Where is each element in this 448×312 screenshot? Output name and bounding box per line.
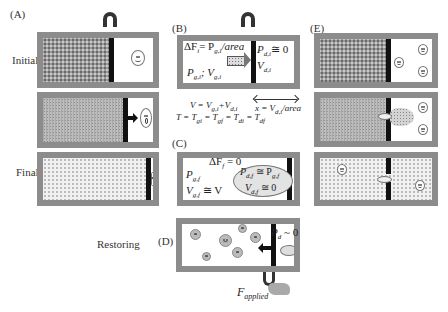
particle-through-membrane	[377, 176, 392, 183]
small-face-bubble	[280, 245, 294, 256]
piston	[123, 98, 128, 142]
chamber-e-transition	[314, 92, 438, 147]
panel-label-a: (A)	[10, 8, 25, 20]
sad-face-icon	[232, 247, 243, 258]
gas-region	[320, 39, 386, 82]
gas-volume-final: Vg,f ≅ V	[186, 184, 222, 199]
volume-equation: V = Vg,i+Vd,i	[190, 100, 237, 113]
row-label-initial: Initial	[12, 54, 38, 66]
pull-arrow-icon	[262, 246, 272, 250]
chamber-a-expanding	[37, 92, 159, 148]
sad-face-icon	[250, 232, 261, 243]
smiley-face-icon	[337, 164, 347, 175]
chamber-e-final	[314, 152, 438, 206]
gas-pressure-final: Pg,f	[186, 168, 200, 183]
panel-label-d: (D)	[158, 235, 173, 247]
horseshoe-magnet-icon	[241, 12, 255, 27]
gas-region	[43, 158, 146, 200]
delta-force-final: ΔFf = 0	[209, 155, 241, 170]
squashed-face-icon	[151, 172, 153, 186]
double-arrow-left-head	[253, 95, 261, 103]
row-label-restoring: Restoring	[97, 238, 140, 250]
displaced-pressure-restoring: Pd ~ 0	[271, 226, 298, 241]
force-arrowhead-icon	[244, 52, 251, 68]
displaced-volume-final: Vd,f ≅ 0	[245, 182, 276, 196]
particle-through-membrane	[378, 113, 392, 120]
panel-label-b: (B)	[172, 22, 187, 34]
gas-region	[43, 38, 109, 82]
displaced-pressure-initial: Pd,i≅ 0	[257, 43, 288, 58]
temperature-equation: T = Tgi = Tgf = Tdi = Tdf	[176, 112, 265, 125]
sad-face-icon	[190, 229, 201, 240]
piston	[109, 38, 114, 82]
smiley-face-icon	[418, 102, 428, 113]
pull-arrowhead-icon	[258, 243, 263, 253]
displaced-volume-initial: Vd,i	[257, 59, 271, 74]
smiley-face-icon	[131, 50, 145, 66]
horseshoe-magnet-icon	[103, 12, 117, 27]
piston-lower	[386, 182, 391, 200]
chamber-e-initial	[314, 33, 438, 88]
piston	[251, 41, 256, 83]
gas-region	[43, 98, 123, 142]
displaced-pressure-final: Pd,f ≅ Pg,f	[240, 166, 279, 180]
chamber-a-final	[37, 152, 159, 206]
smiley-face-icon	[418, 124, 428, 135]
smiley-face-icon	[418, 66, 428, 77]
piston-upper	[386, 158, 391, 174]
smiley-face-icon	[418, 44, 428, 55]
sad-face-icon	[238, 224, 247, 233]
scared-face-icon	[140, 108, 152, 128]
push-arrowhead-icon	[133, 113, 138, 123]
double-arrow-right-head	[291, 95, 299, 103]
row-label-final: Final	[16, 166, 39, 178]
gas-region	[320, 98, 386, 141]
gas-region	[320, 158, 432, 200]
applied-force-label: Fapplied	[237, 285, 268, 301]
smiley-face-icon	[394, 57, 404, 68]
piston	[386, 39, 391, 82]
gas-leak-cloud	[390, 108, 414, 126]
sad-face-icon	[202, 252, 211, 261]
chamber-a-initial	[37, 32, 159, 88]
gas-state-initial: Pg,i; Vg,i	[187, 66, 221, 81]
force-arrow-icon	[227, 56, 245, 66]
smiley-face-icon	[415, 180, 425, 191]
delta-force-initial: ΔFi= Pg,i/area	[184, 40, 244, 55]
panel-label-c: (C)	[172, 137, 187, 149]
pulling-hand-icon	[268, 283, 290, 295]
sad-face-icon	[219, 234, 232, 247]
